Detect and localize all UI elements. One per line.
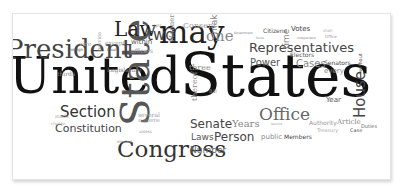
word-shall: shall <box>323 29 332 33</box>
word-cloud-frame: UnitedStatesStatePresidentmayCongressLaw… <box>12 13 391 180</box>
word-case: Case <box>350 128 362 133</box>
word-office: Office <box>259 106 310 123</box>
word-manner: Manner <box>169 14 176 42</box>
word-independent: Independent <box>297 37 316 40</box>
word-make: make <box>210 13 219 34</box>
word-year: Year <box>326 97 341 104</box>
word-within: within <box>131 39 152 46</box>
word-cases: Cases <box>296 59 326 69</box>
word-unless: unless <box>139 130 152 134</box>
word-house: House <box>353 71 368 118</box>
word-provide: provide <box>97 32 102 51</box>
word-senators: Senators <box>324 60 351 66</box>
word-authority: Authority <box>309 120 337 126</box>
word-citizens: Citizens <box>263 28 287 34</box>
word-court: Court <box>107 48 118 52</box>
word-elected: elected <box>117 140 132 144</box>
word-except: except <box>105 40 125 46</box>
word-every: every <box>324 68 344 75</box>
word-foreign: foreign <box>69 48 83 52</box>
word-made: made <box>55 114 69 119</box>
word-person: Person <box>214 131 254 143</box>
word-article: Article <box>337 119 361 126</box>
word-chosen: chosen <box>51 122 65 126</box>
word-public: public <box>261 134 282 141</box>
word-years: Years <box>232 119 260 129</box>
word-power: Power <box>250 58 280 68</box>
word-votes: Votes <box>291 26 310 33</box>
word-rules: Rules <box>256 37 264 40</box>
word-laws: Laws <box>191 133 214 142</box>
word-thereof: thereof <box>191 72 199 101</box>
word-electors: Electors <box>290 52 314 58</box>
word-government: Government <box>234 32 253 35</box>
word-number: Number <box>190 146 226 155</box>
word-senate: Senate <box>190 118 232 130</box>
word-without: without <box>358 53 363 72</box>
word-service: Service <box>271 123 282 126</box>
word-legislature: Legislature <box>107 67 142 73</box>
word-treasury: Treasury <box>317 128 338 133</box>
word-right: right <box>152 24 161 28</box>
word-members: Members <box>284 134 312 140</box>
word-office: Office <box>325 35 337 39</box>
word-supreme: supreme <box>138 118 160 123</box>
word-duties: Duties <box>361 124 377 129</box>
word-thirds: thirds <box>57 71 75 77</box>
word-officers: officers <box>131 48 153 54</box>
word-bill: Bill <box>209 89 217 94</box>
